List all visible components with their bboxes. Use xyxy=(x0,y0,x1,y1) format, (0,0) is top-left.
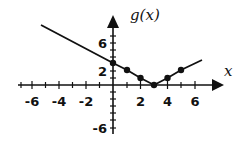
x-tick-label: -4 xyxy=(52,94,66,109)
x-tick-label: -2 xyxy=(79,94,93,109)
function-line xyxy=(41,25,202,85)
x-tick-label: 4 xyxy=(163,94,172,109)
y-tick-label: 2 xyxy=(98,64,107,79)
function-label: g(x) xyxy=(130,6,160,24)
x-axis-label: x xyxy=(224,62,233,80)
x-tick-label: 6 xyxy=(190,94,199,109)
y-axis-arrow-icon xyxy=(107,15,119,28)
x-tick-label: 2 xyxy=(136,94,145,109)
y-tick-label: -6 xyxy=(93,121,107,136)
x-tick-label: -6 xyxy=(25,94,39,109)
y-tick-label: 6 xyxy=(98,36,107,51)
x-axis-arrow-icon xyxy=(212,79,224,91)
function-graph: -6 -4 -2 2 4 6 6 2 -6 g(x) x xyxy=(0,0,242,145)
